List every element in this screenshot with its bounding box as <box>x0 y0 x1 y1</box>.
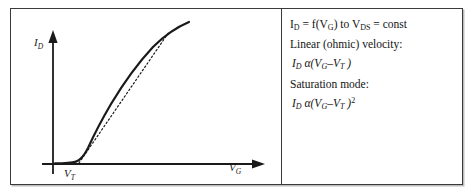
y-axis-label: ID <box>34 36 43 51</box>
figure-container: ID VG VT ID = f(VG) to VDS = const Linea… <box>10 8 463 185</box>
equation-linear-mode: ID α(VG–VT ) <box>292 58 351 71</box>
threshold-voltage-label: VT <box>64 167 75 182</box>
plot-panel: ID VG VT <box>11 9 282 184</box>
saturation-mode-heading: Saturation mode: <box>290 79 369 91</box>
y-axis <box>48 30 57 174</box>
x-axis-label: VG <box>229 161 241 176</box>
equation-saturation-mode: ID α(VG–VT )2 <box>292 97 355 111</box>
drain-current-curve <box>55 22 189 163</box>
equation-line-condition: ID = f(VG) to VDS = const <box>290 19 407 32</box>
linear-mode-heading: Linear (ohmic) velocity: <box>290 39 402 51</box>
transfer-characteristic-chart <box>11 9 282 184</box>
equations-panel: ID = f(VG) to VDS = const Linear (ohmic)… <box>282 9 462 184</box>
linear-extrapolation-dotted-line <box>79 32 169 163</box>
